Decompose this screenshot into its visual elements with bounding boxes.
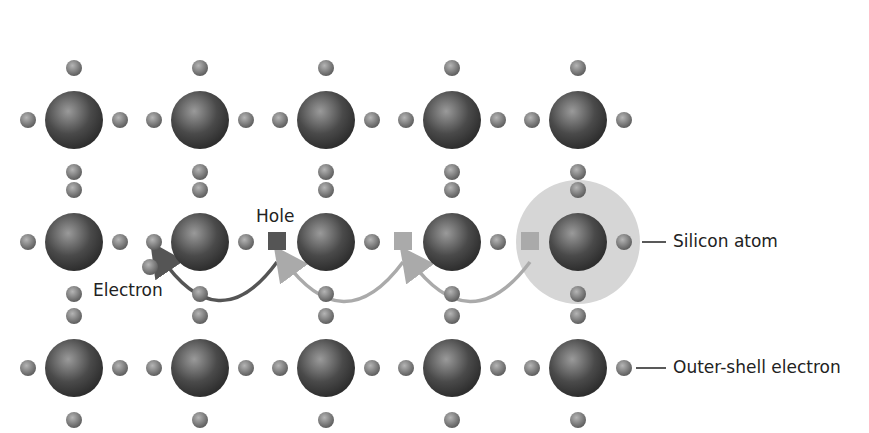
electron	[318, 308, 334, 324]
electron	[364, 112, 380, 128]
electron	[192, 286, 208, 302]
electron	[570, 164, 586, 180]
electron	[318, 286, 334, 302]
electron	[66, 164, 82, 180]
electron	[20, 112, 36, 128]
hole-square	[394, 232, 412, 250]
silicon-atom	[423, 213, 481, 271]
silicon-lattice-diagram: Hole Electron Silicon atom Outer-shell e…	[0, 0, 869, 433]
electron	[570, 60, 586, 76]
silicon-atom	[171, 213, 229, 271]
electron	[490, 112, 506, 128]
electron	[192, 412, 208, 428]
electron	[146, 112, 162, 128]
electron	[66, 412, 82, 428]
electron	[616, 234, 632, 250]
electron	[272, 360, 288, 376]
silicon-atom	[45, 213, 103, 271]
silicon-atom-label: Silicon atom	[673, 231, 778, 251]
electron	[364, 234, 380, 250]
electron	[66, 182, 82, 198]
silicon-atom	[45, 91, 103, 149]
silicon-atom	[297, 213, 355, 271]
electron	[444, 286, 460, 302]
outer-shell-electron-label: Outer-shell electron	[673, 357, 841, 377]
electron	[112, 112, 128, 128]
electron	[524, 112, 540, 128]
electron	[112, 360, 128, 376]
electron	[444, 308, 460, 324]
silicon-atom	[297, 339, 355, 397]
electron	[66, 308, 82, 324]
silicon-atom	[297, 91, 355, 149]
electron	[318, 182, 334, 198]
electron	[238, 112, 254, 128]
electron	[20, 234, 36, 250]
electron	[570, 412, 586, 428]
electron	[20, 360, 36, 376]
electron	[570, 308, 586, 324]
electron	[146, 234, 162, 250]
electron	[192, 164, 208, 180]
electron	[238, 360, 254, 376]
electron-movement-arrow	[410, 260, 530, 302]
silicon-atom	[45, 339, 103, 397]
silicon-atom	[549, 339, 607, 397]
silicon-atom	[171, 339, 229, 397]
electron	[398, 360, 414, 376]
electron	[318, 164, 334, 180]
electron	[490, 360, 506, 376]
electron	[238, 234, 254, 250]
electron	[444, 412, 460, 428]
hole-label: Hole	[256, 206, 294, 226]
electron-label: Electron	[93, 280, 163, 300]
electron	[318, 60, 334, 76]
electron	[272, 112, 288, 128]
electron	[524, 360, 540, 376]
electron	[192, 60, 208, 76]
hole-square	[521, 232, 539, 250]
silicon-atom	[423, 339, 481, 397]
electron	[398, 112, 414, 128]
silicon-atom	[549, 91, 607, 149]
electron	[444, 164, 460, 180]
electron	[490, 234, 506, 250]
hole-square	[268, 232, 286, 250]
electron	[66, 60, 82, 76]
electron	[318, 412, 334, 428]
silicon-atom	[423, 91, 481, 149]
electron	[192, 182, 208, 198]
displaced-electron	[142, 259, 158, 275]
electron	[444, 60, 460, 76]
electron	[66, 286, 82, 302]
electron	[146, 360, 162, 376]
electron-movement-arrow	[284, 260, 403, 302]
silicon-atom	[549, 213, 607, 271]
electron	[364, 360, 380, 376]
electron	[570, 286, 586, 302]
silicon-atom	[171, 91, 229, 149]
electron	[570, 182, 586, 198]
electron	[444, 182, 460, 198]
electron	[616, 360, 632, 376]
electron	[616, 112, 632, 128]
electron	[192, 308, 208, 324]
electron	[112, 234, 128, 250]
